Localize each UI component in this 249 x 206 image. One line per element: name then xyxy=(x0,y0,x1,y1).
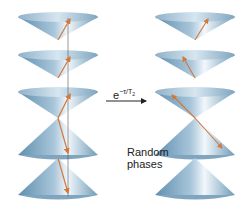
random-text: Random xyxy=(127,146,169,158)
left-cone-rim-3 xyxy=(18,87,98,97)
right-cone-rim-1 xyxy=(155,12,235,22)
decay-factor-label: e−τ/T2 xyxy=(113,86,135,101)
decay-exponent: −τ/T2 xyxy=(119,88,135,95)
left-cone-4 xyxy=(18,118,98,155)
exp-text: −τ/T xyxy=(119,88,132,95)
left-cone-rim-2 xyxy=(18,50,98,60)
left-cone-rim-1 xyxy=(18,12,98,22)
left-cone-5 xyxy=(18,158,98,195)
spin-cones-diagram xyxy=(0,0,249,206)
right-cone-rim-2 xyxy=(155,50,235,60)
exp-sub: 2 xyxy=(132,91,135,97)
random-phases-label: Random phases xyxy=(127,146,169,170)
right-cone-rim-3 xyxy=(155,87,235,97)
right-cone-base-5 xyxy=(155,195,235,200)
phases-text: phases xyxy=(127,158,169,170)
left-cone-base-5 xyxy=(18,195,98,200)
